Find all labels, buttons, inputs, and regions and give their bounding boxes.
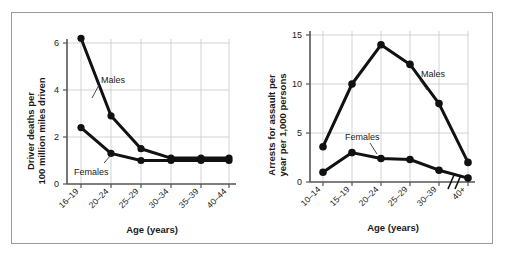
x-axis-title: Age (years) (367, 222, 419, 233)
leader-line-females (104, 155, 111, 163)
y-axis-title-line1: Driver deaths per (25, 92, 36, 170)
x-tick-label-3: 25–29 (386, 184, 410, 208)
series-line-females (81, 128, 229, 161)
chart-driver-deaths: Driver deaths per 100 million miles driv… (12, 13, 253, 243)
series-line-males (81, 38, 229, 158)
data-point-females (348, 149, 356, 157)
figure-frame: Driver deaths per 100 million miles driv… (11, 12, 493, 244)
y-tick-label-15: 15 (292, 30, 302, 40)
y-tick-label-0: 0 (54, 179, 59, 189)
series-label-males: Males (421, 69, 446, 79)
data-point-females (406, 156, 414, 164)
data-point-females (464, 174, 472, 182)
data-point-males (137, 145, 144, 152)
leader-line-females (370, 143, 377, 154)
data-point-males (377, 41, 385, 49)
data-point-females (319, 168, 327, 176)
x-tick-label-1: 15–19 (328, 184, 352, 208)
data-point-females (167, 157, 174, 164)
data-point-females (377, 155, 385, 163)
series-line-females (323, 153, 468, 179)
data-point-males (464, 159, 472, 167)
data-point-males (107, 112, 114, 119)
series-line-males (323, 45, 468, 163)
y-tick-label-5: 5 (297, 128, 302, 138)
data-point-males (348, 80, 356, 88)
data-point-females (77, 124, 84, 131)
y-tick-label-4: 4 (54, 85, 59, 95)
series-label-females: Females (345, 132, 380, 142)
x-tick-label-0: 16–19 (57, 186, 81, 210)
y-axis-title-line2: year per 1,000 persons (277, 74, 288, 177)
x-tick-label-4: 35–39 (177, 186, 201, 210)
series-label-males: Males (101, 75, 126, 85)
leader-line-males (92, 85, 99, 98)
x-tick-label-5: 40+ (450, 184, 467, 201)
y-tick-label-0: 0 (297, 177, 302, 187)
chart-assault-arrests: Arrests for assault per year per 1,000 p… (253, 13, 494, 243)
x-tick-label-2: 25–29 (117, 186, 141, 210)
x-tick-label-5: 40–44 (205, 186, 229, 210)
data-point-females (225, 157, 232, 164)
x-tick-label-3: 30–34 (147, 186, 171, 210)
data-point-males (406, 61, 414, 69)
series-label-females: Females (74, 167, 109, 177)
data-point-males (77, 35, 84, 42)
data-point-females (197, 157, 204, 164)
assault-arrests-svg: Arrests for assault per year per 1,000 p… (253, 13, 494, 243)
y-tick-label-6: 6 (54, 38, 59, 48)
x-axis-title: Age (years) (126, 224, 178, 235)
x-tick-label-0: 10–14 (299, 184, 323, 208)
x-tick-label-4: 30–39 (415, 184, 439, 208)
data-point-females (107, 150, 114, 157)
y-axis-title-line1: Arrests for assault per (266, 74, 277, 176)
data-point-females (435, 166, 443, 174)
driver-deaths-svg: Driver deaths per 100 million miles driv… (12, 13, 253, 243)
data-point-females (137, 157, 144, 164)
y-tick-label-10: 10 (292, 79, 302, 89)
y-axis-title-line2: 100 million miles driven (36, 77, 47, 184)
y-tick-label-2: 2 (54, 132, 59, 142)
data-point-males (319, 143, 327, 151)
data-point-males (435, 100, 443, 108)
x-tick-label-1: 20–24 (87, 186, 111, 210)
x-tick-label-2: 20–24 (357, 184, 381, 208)
